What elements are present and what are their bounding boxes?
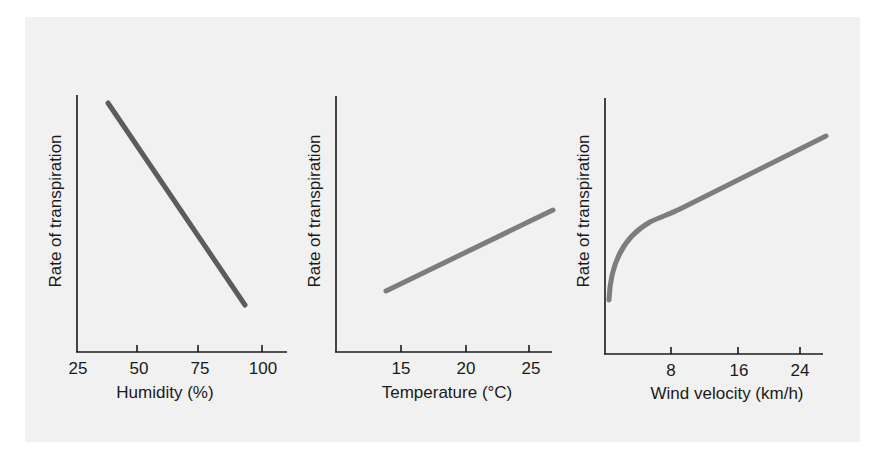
chart-wind-velocity: Rate of transpiration 8 16 24 Wind veloc… [574,98,826,403]
x-tick-label: 16 [730,361,749,380]
y-axis-label: Rate of transpiration [46,134,65,287]
x-tick-label: 15 [392,359,411,378]
x-tick-label: 20 [457,359,476,378]
x-axis-label: Temperature (°C) [382,383,513,402]
y-axis-label: Rate of transpiration [305,134,324,287]
x-tick-label: 75 [191,359,210,378]
y-axis-label: Rate of transpiration [574,134,593,287]
chart-humidity: Rate of transpiration 25 50 75 100 Humid… [46,95,287,402]
x-tick-label: 100 [249,359,277,378]
x-tick-label: 25 [69,359,88,378]
transpiration-figure: Rate of transpiration 25 50 75 100 Humid… [0,0,885,458]
x-tick-label: 24 [791,361,810,380]
x-axis-label: Humidity (%) [116,383,213,402]
data-curve [609,136,826,300]
x-tick-label: 25 [522,359,541,378]
data-line [386,210,553,291]
data-line [108,103,245,305]
chart-temperature: Rate of transpiration 15 20 25 Temperatu… [305,96,553,402]
x-axis-label: Wind velocity (km/h) [650,384,803,403]
x-tick-label: 8 [666,361,675,380]
x-tick-label: 50 [130,359,149,378]
